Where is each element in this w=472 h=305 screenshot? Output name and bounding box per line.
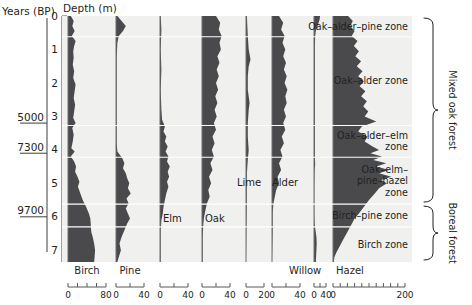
forest-group: Mixed oak forest (424, 18, 458, 202)
taxon-label-elm: Elm (163, 213, 182, 224)
scale-tick-label: 0 (157, 290, 163, 300)
depth-axis-title: Depth (m) (63, 2, 117, 14)
scale-tick-label: 200 (396, 290, 413, 300)
depth-tick-label: 0 (51, 10, 58, 22)
scale-tick-label: 0 (65, 290, 71, 300)
zone-label-line: Birch zone (358, 239, 408, 250)
zone-label-line: zone (385, 187, 408, 198)
years-axis-group: 500073009700 (17, 18, 47, 252)
taxon-label-pine: Pine (119, 265, 140, 276)
depth-tick-label: 5 (51, 177, 58, 189)
zone-label: Oak–alder zone (334, 75, 408, 86)
scale-bar-birch: 080 (65, 283, 112, 300)
forest-group: Boreal forest (424, 202, 458, 264)
depth-tick-label: 4 (51, 143, 58, 155)
group-brace (424, 18, 438, 202)
group-label: Boreal forest (447, 202, 458, 264)
taxon-label-alder: Alder (272, 177, 299, 188)
depth-tick-label: 1 (51, 43, 58, 55)
year-marker-label: 9700 (17, 204, 44, 216)
group-brace (424, 206, 438, 260)
zone-label: Oak–alder–pine zone (308, 21, 408, 32)
taxon-label-lime: Lime (237, 177, 261, 188)
zone-label: Birch–pine zone (332, 210, 408, 221)
zone-label-line: Oak–alder zone (334, 75, 408, 86)
zone-label-line: Birch–pine zone (332, 210, 408, 221)
taxon-label-willow: Willow (289, 265, 321, 276)
taxon-label-hazel: Hazel (336, 265, 364, 276)
scale-tick-label: 40 (138, 290, 150, 300)
depth-tick-label: 6 (51, 210, 58, 222)
scale-bar-elm: 040 (157, 283, 194, 300)
zone-label-line: zone (385, 141, 408, 152)
scale-bar-oak: 040 (199, 283, 236, 300)
scale-tick-label: 0 (113, 290, 119, 300)
zone-label-line: Oak–alder–pine zone (308, 21, 408, 32)
group-label: Mixed oak forest (447, 70, 458, 150)
depth-tick-label: 7 (51, 244, 58, 256)
scale-bar-hazel: 0200 (330, 283, 414, 300)
scale-tick-label: 0 (311, 290, 317, 300)
year-marker-label: 7300 (17, 141, 44, 153)
scale-tick-label: 40 (294, 290, 306, 300)
scale-bar-lime: 020 (243, 283, 270, 300)
scale-tick-label: 40 (224, 290, 236, 300)
year-marker-label: 5000 (17, 111, 44, 123)
scale-tick-label: 0 (330, 290, 336, 300)
scale-bar-pine: 040 (113, 283, 150, 300)
scale-bar-alder: 040 (269, 283, 306, 300)
taxon-label-oak: Oak (205, 213, 225, 224)
scale-tick-label: 80 (100, 290, 112, 300)
pollen-diagram-svg: Depth (m) Years (BP) 500073009700 012345… (0, 0, 472, 305)
zone-label: Birch zone (358, 239, 408, 250)
forest-group-brackets: Mixed oak forestBoreal forest (424, 18, 458, 264)
taxon-label-birch: Birch (74, 265, 99, 276)
zone-label-line: Oak–elm– (362, 164, 409, 175)
zone-label-line: Oak–alder–elm (337, 130, 408, 141)
scale-tick-label: 40 (182, 290, 194, 300)
years-axis-title: Years (BP) (1, 5, 55, 17)
depth-tick-label: 3 (51, 110, 58, 122)
scale-tick-label: 0 (243, 290, 249, 300)
scale-tick-label: 0 (269, 290, 275, 300)
scale-bars-group: 0800400400400200400400200 (65, 283, 414, 300)
pollen-diagram-figure: Depth (m) Years (BP) 500073009700 012345… (0, 0, 472, 305)
scale-tick-label: 0 (199, 290, 205, 300)
scale-bar-willow: 040 (311, 283, 332, 300)
zone-label-line: pine–hazel (357, 175, 408, 186)
depth-tick-label: 2 (51, 77, 58, 89)
